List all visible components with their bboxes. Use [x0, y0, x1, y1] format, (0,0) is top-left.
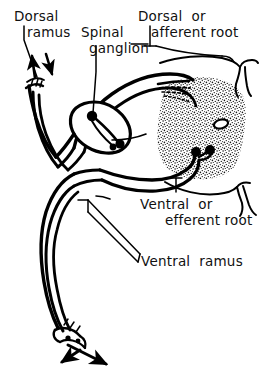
spinal-ganglion [70, 102, 130, 153]
label-dorsal-root-line2: afferent root [138, 24, 238, 40]
label-dorsal-ramus: Dorsalramus [14, 8, 71, 40]
label-dorsal-root-line1: Dorsal or [138, 8, 206, 24]
label-spinal-ganglion-line1: Spinal [81, 24, 124, 40]
label-ventral-root: Ventral orefferent root [140, 196, 252, 228]
label-dorsal-root: Dorsal orafferent root [138, 8, 238, 40]
label-dorsal-ramus-line2: ramus [14, 24, 71, 40]
label-ventral-root-line1: Ventral or [140, 196, 213, 212]
label-ventral-ramus-line1: Ventral ramus [141, 253, 243, 269]
afferent-arrow [62, 350, 80, 362]
dorsal-ramus-arrows [32, 54, 52, 78]
label-ventral-root-line2: efferent root [140, 212, 252, 228]
label-ventral-ramus: Ventral ramus [141, 253, 243, 269]
leader-ventral-ramus-tip [138, 254, 140, 262]
ganglion-cell-body [110, 144, 117, 151]
label-spinal-ganglion-line2: ganglion [81, 40, 149, 56]
ganglion-cell-body [115, 139, 124, 148]
label-dorsal-ramus-line1: Dorsal [14, 8, 58, 24]
leader-ventral-ramus-c [88, 212, 138, 262]
leader-dorsal-root-branch-a [156, 46, 222, 56]
dorsal-ramus [26, 78, 68, 170]
efferent-arrow [46, 54, 52, 74]
leader-ventral-ramus-d [88, 200, 140, 254]
